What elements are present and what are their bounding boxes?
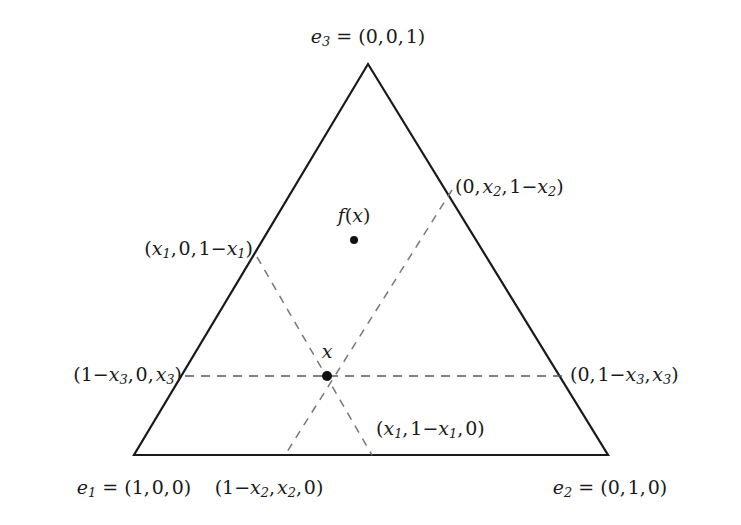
label-edge-x1-left: (x1, 0, 1−x1) [144, 239, 253, 262]
label-edge-x1-bottom: (x1, 1−x1, 0) [376, 419, 485, 442]
label-edge-x3-right: (0, 1−x3, x3) [570, 365, 679, 388]
point-fx-dot [350, 236, 358, 244]
label-point-x: x [322, 342, 333, 361]
simplex-svg [0, 0, 741, 525]
label-vertex-e3: e3 = (0, 0, 1) [311, 27, 425, 50]
label-point-fx: f(x) [338, 206, 371, 225]
label-vertex-e1: e1 = (1, 0, 0) [77, 478, 191, 501]
dashed-line-x1 [257, 257, 372, 455]
label-edge-x3-left: (1−x3, 0, x3) [73, 365, 182, 388]
label-edge-x2-bottom: (1−x2, x2, 0) [215, 478, 324, 501]
label-edge-x2-right: (0, x2, 1−x2) [455, 177, 564, 200]
dashed-line-x2 [285, 190, 452, 455]
point-x-dot [322, 371, 332, 381]
label-vertex-e2: e2 = (0, 1, 0) [553, 478, 667, 501]
simplex-diagram-canvas: e3 = (0, 0, 1) e1 = (1, 0, 0) e2 = (0, 1… [0, 0, 741, 525]
